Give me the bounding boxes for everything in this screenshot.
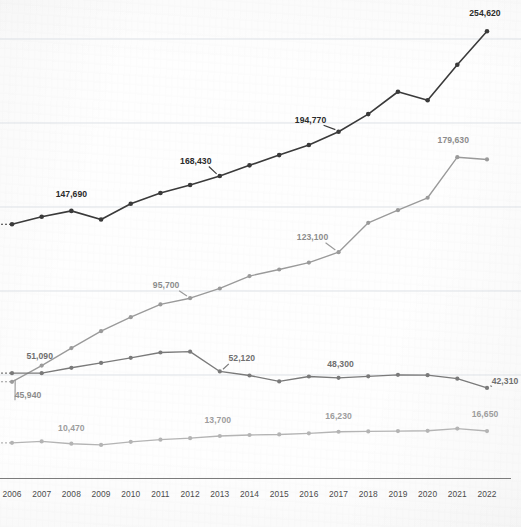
data-label: 194,770: [295, 115, 327, 125]
data-label: 254,620: [469, 8, 501, 18]
data-label: 51,090: [26, 351, 53, 361]
data-point: [158, 350, 162, 354]
series-value-labels: 51,09052,12048,30042,310: [26, 351, 518, 386]
data-point: [10, 441, 14, 445]
data-label: 123,100: [297, 232, 329, 242]
data-point: [69, 209, 74, 214]
x-tick-label: 2009: [92, 489, 111, 499]
data-point: [188, 296, 192, 300]
gridlines: [0, 39, 521, 375]
x-tick-label: 2006: [2, 489, 21, 499]
data-point: [99, 443, 103, 447]
data-point: [425, 98, 430, 103]
x-tick-label: 2012: [181, 489, 200, 499]
data-point: [247, 163, 252, 168]
data-point: [455, 155, 459, 159]
data-point: [366, 429, 370, 433]
x-axis-tick-labels: 2006200720082009201020112012201320142015…: [2, 489, 496, 499]
x-tick-label: 2015: [270, 489, 289, 499]
data-point: [336, 376, 340, 380]
data-point: [10, 371, 14, 375]
data-point: [247, 373, 251, 377]
data-point: [396, 89, 401, 94]
data-point: [247, 433, 251, 437]
label-connector: [209, 167, 217, 174]
x-tick-label: 2014: [240, 489, 259, 499]
x-tick-label: 2010: [121, 489, 140, 499]
data-label: 13,700: [205, 415, 232, 425]
data-point: [455, 426, 459, 430]
data-point: [158, 438, 162, 442]
data-point: [129, 440, 133, 444]
data-point: [128, 202, 133, 207]
x-tick-label: 2013: [210, 489, 229, 499]
series-value-labels: 10,47013,70016,23016,650: [58, 409, 498, 433]
data-point: [426, 196, 430, 200]
data-point: [218, 434, 222, 438]
data-point: [218, 286, 222, 290]
data-label: 45,940: [15, 390, 42, 400]
x-tick-label: 2007: [32, 489, 51, 499]
data-point: [307, 374, 311, 378]
x-tick-label: 2022: [477, 489, 496, 499]
x-tick-label: 2018: [359, 489, 378, 499]
data-point: [366, 221, 370, 225]
x-tick-label: 2019: [388, 489, 407, 499]
data-point: [10, 380, 14, 384]
label-connector: [326, 243, 336, 250]
data-label: 10,470: [58, 423, 85, 433]
data-point: [40, 363, 44, 367]
data-label: 95,700: [153, 280, 180, 290]
data-point: [69, 346, 73, 350]
data-point: [336, 129, 341, 134]
label-connector: [324, 125, 336, 129]
data-point: [396, 373, 400, 377]
x-tick-label: 2016: [299, 489, 318, 499]
data-point: [455, 377, 459, 381]
data-point: [40, 371, 44, 375]
x-tick-label: 2021: [448, 489, 467, 499]
x-tick-label: 2008: [62, 489, 81, 499]
data-point: [218, 174, 223, 179]
x-tick-label: 2017: [329, 489, 348, 499]
data-point: [277, 379, 281, 383]
data-point: [485, 29, 490, 34]
data-label: 16,650: [472, 409, 499, 419]
data-point: [247, 274, 251, 278]
data-point: [129, 315, 133, 319]
data-point: [485, 429, 489, 433]
data-point: [218, 369, 222, 373]
data-point: [188, 350, 192, 354]
data-label: 52,120: [229, 353, 256, 363]
data-point: [99, 329, 103, 333]
data-label: 179,630: [438, 135, 470, 145]
data-label: 147,690: [56, 189, 88, 199]
data-point: [69, 366, 73, 370]
data-label: 48,300: [327, 359, 354, 369]
label-connector: [223, 364, 229, 369]
data-point: [99, 361, 103, 365]
label-connector: [179, 291, 187, 296]
chart-container: 147,690168,430194,770254,62045,94095,700…: [0, 0, 521, 527]
data-point: [188, 436, 192, 440]
data-point: [307, 143, 312, 148]
data-label: 168,430: [180, 156, 212, 166]
data-point: [69, 442, 73, 446]
data-point: [158, 302, 162, 306]
data-point: [40, 439, 44, 443]
data-point: [485, 157, 489, 161]
data-point: [307, 431, 311, 435]
data-point: [426, 429, 430, 433]
data-point: [307, 261, 311, 265]
data-point: [485, 386, 489, 390]
data-point: [129, 356, 133, 360]
line-chart-plot: 147,690168,430194,770254,62045,94095,700…: [0, 0, 521, 527]
x-tick-label: 2011: [151, 489, 170, 499]
data-label: 42,310: [492, 376, 519, 386]
data-point: [455, 62, 460, 67]
data-point: [336, 430, 340, 434]
series-value-labels: 147,690168,430194,770254,620: [56, 8, 501, 199]
data-point: [277, 153, 282, 158]
data-point: [366, 374, 370, 378]
data-point: [396, 208, 400, 212]
